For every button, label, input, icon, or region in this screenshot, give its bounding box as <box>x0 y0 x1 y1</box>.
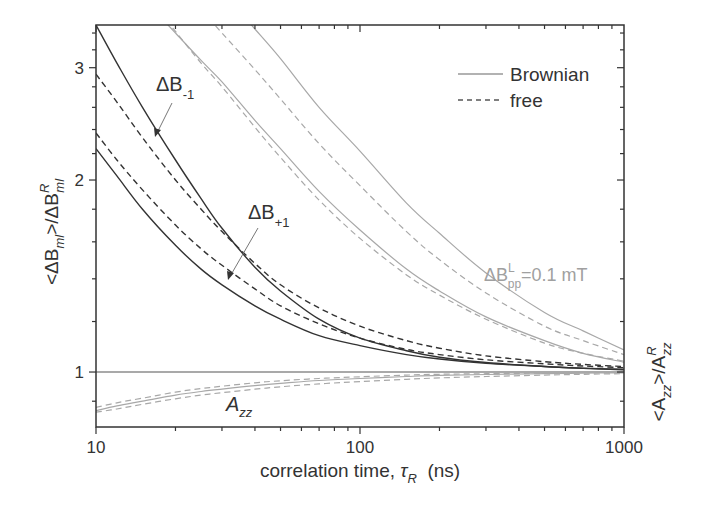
annotation-dB-plus1: ΔB+1 <box>227 201 290 280</box>
x-tick-label: 10 <box>87 438 106 457</box>
annotation-linewidth-label: ΔBLpp=0.1 mT <box>484 261 588 291</box>
y-tick-label: 2 <box>75 171 84 190</box>
x-tick-label: 100 <box>346 438 374 457</box>
annotation-linewidth: ΔBLpp=0.1 mT <box>484 261 588 291</box>
series-line-6 <box>202 11 624 355</box>
y-axis-title-right: <Azz>/ARzz <box>644 342 674 422</box>
legend-label-free: free <box>510 90 543 111</box>
legend: Brownian free <box>458 64 589 111</box>
y-tick-label: 1 <box>75 363 84 382</box>
annotation-azz: Azz <box>225 393 253 420</box>
series-line-7 <box>240 11 624 350</box>
y-axis-title-left: <ΔBml>/ΔBRml <box>37 178 67 285</box>
series-line-10 <box>96 373 624 408</box>
series-line-2 <box>96 133 624 368</box>
annotation-dB-minus1-label: ΔB-1 <box>156 73 194 102</box>
series-line-3 <box>96 149 624 370</box>
x-tick-label: 1000 <box>605 438 643 457</box>
annotation-azz-label: Azz <box>225 393 253 420</box>
tick-labels: 101001000123 <box>75 59 643 457</box>
chart: 101001000123 Brownian free ΔB-1 ΔB+1 ΔBL… <box>0 0 706 514</box>
legend-label-brownian: Brownian <box>510 64 589 85</box>
y-tick-label: 3 <box>75 59 84 78</box>
series-line-11 <box>96 374 624 413</box>
annotation-dB-plus1-label: ΔB+1 <box>248 201 290 230</box>
series-line-1 <box>96 74 624 366</box>
arrow-line <box>158 103 172 131</box>
annotation-dB-minus1: ΔB-1 <box>154 73 194 137</box>
x-axis-title: correlation time, τR (ns) <box>260 460 460 486</box>
